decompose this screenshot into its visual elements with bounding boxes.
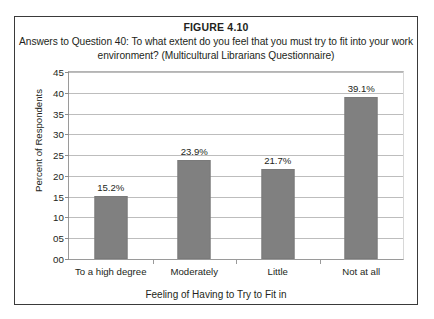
y-axis-tick-label: 05	[53, 233, 64, 244]
bar-value-label: 23.9%	[181, 146, 208, 157]
y-axis-tick-label: 20	[53, 170, 64, 181]
x-axis-tick-mark	[236, 259, 237, 264]
bar-value-label: 39.1%	[348, 83, 375, 94]
bar-group: 23.9%Moderately	[153, 72, 237, 259]
x-axis-category-label: Moderately	[171, 266, 218, 277]
figure-frame: FIGURE 4.10 Answers to Question 40: To w…	[14, 16, 418, 305]
bar[interactable]	[345, 97, 378, 259]
y-axis-tick-label: 45	[53, 67, 64, 78]
bar-group: 15.2%To a high degree	[69, 72, 153, 259]
y-axis-tick-mark	[65, 259, 69, 260]
y-axis-tick-label: 30	[53, 129, 64, 140]
x-axis-title: Feeling of Having to Try to Fit in	[15, 289, 417, 300]
y-axis-tick-label: 00	[53, 254, 64, 265]
x-axis-category-label: To a high degree	[75, 266, 146, 277]
y-axis-tick-label: 25	[53, 150, 64, 161]
x-axis-category-label: Not at all	[342, 266, 380, 277]
figure-caption: Answers to Question 40: To what extent d…	[9, 35, 423, 62]
y-axis-tick-label: 40	[53, 87, 64, 98]
bar[interactable]	[178, 160, 211, 259]
x-axis-category-label: Little	[268, 266, 288, 277]
y-axis-title: Percent of Respondents	[33, 71, 44, 211]
bar-value-label: 15.2%	[97, 182, 124, 193]
plot-area: 0005101520253035404515.2%To a high degre…	[68, 71, 404, 260]
bar-group: 39.1%Not at all	[320, 72, 404, 259]
bar[interactable]	[261, 169, 294, 259]
y-axis-tick-label: 15	[53, 191, 64, 202]
figure-label: FIGURE 4.10	[15, 21, 417, 33]
y-axis-tick-label: 10	[53, 212, 64, 223]
bar-group: 21.7%Little	[236, 72, 320, 259]
x-axis-tick-mark	[320, 259, 321, 264]
bar[interactable]	[94, 196, 127, 259]
y-axis-tick-label: 35	[53, 108, 64, 119]
bar-value-label: 21.7%	[264, 155, 291, 166]
x-axis-tick-mark	[153, 259, 154, 264]
